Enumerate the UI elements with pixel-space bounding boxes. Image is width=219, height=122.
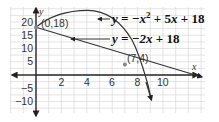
- x-axis-label: x: [191, 61, 197, 72]
- graph: y x 2 4 6 8 10 20 15 10 5 −5 −10 (0,18) …: [0, 0, 219, 122]
- point-label-7-4: (7,4): [127, 52, 149, 64]
- y-tick-label: −5: [21, 82, 33, 94]
- x-tick-label: 6: [109, 76, 115, 88]
- equation-linear: y = −2x + 18: [110, 31, 180, 46]
- y-tick-label: −10: [15, 95, 33, 107]
- y-tick-label: 15: [21, 29, 33, 41]
- equation-parabola: y = −x2 + 5x + 18: [110, 10, 205, 26]
- point-0-18: [34, 25, 38, 29]
- y-tick-label: 5: [27, 55, 33, 67]
- x-tick-label: 4: [84, 76, 90, 88]
- point-label-0-18: (0,18): [41, 17, 68, 29]
- x-tick-label: 10: [157, 76, 169, 88]
- y-tick-label: 20: [21, 16, 33, 28]
- parabola-arrow: [146, 82, 152, 100]
- y-axis-label: y: [38, 6, 44, 17]
- x-tick-label: 2: [59, 76, 65, 88]
- x-tick-label: 8: [135, 76, 141, 88]
- y-tick-label: 10: [21, 42, 33, 54]
